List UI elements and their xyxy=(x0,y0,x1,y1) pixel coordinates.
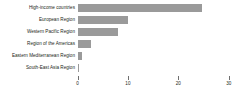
chart-row: Region of the Americas xyxy=(0,38,250,50)
axis-tick xyxy=(78,76,79,80)
chart-row: Eastern Mediterranean Region xyxy=(0,50,250,62)
chart-row: Western Pacific Region xyxy=(0,26,250,38)
plot-area: High-income countries European Region We… xyxy=(0,0,250,95)
bar-segment[interactable] xyxy=(78,64,80,72)
axis-tick-label: 0 xyxy=(68,81,88,87)
category-label: High-income countries xyxy=(29,2,75,14)
chart-row: South-East Asia Region xyxy=(0,62,250,74)
chart-row: High-income countries xyxy=(0,2,250,14)
bar-chart: High-income countries European Region We… xyxy=(0,0,250,95)
category-label: South-East Asia Region xyxy=(26,62,75,74)
axis-tick xyxy=(128,76,129,80)
bar-segment[interactable] xyxy=(78,28,118,36)
category-label: Eastern Mediterranean Region xyxy=(12,50,75,62)
axis-tick-label: 20 xyxy=(168,81,188,87)
axis-tick xyxy=(229,76,230,80)
axis-tick-label: 30 xyxy=(219,81,239,87)
category-label: Western Pacific Region xyxy=(27,26,75,38)
category-label: Region of the Americas xyxy=(27,38,75,50)
category-label: European Region xyxy=(39,14,75,26)
bar-segment[interactable] xyxy=(78,4,203,12)
bar-segment[interactable] xyxy=(78,16,128,24)
axis-tick-label: 10 xyxy=(118,81,138,87)
axis-tick xyxy=(178,76,179,80)
bar-segment[interactable] xyxy=(78,40,92,48)
chart-row: European Region xyxy=(0,14,250,26)
bar-segment[interactable] xyxy=(78,52,82,60)
